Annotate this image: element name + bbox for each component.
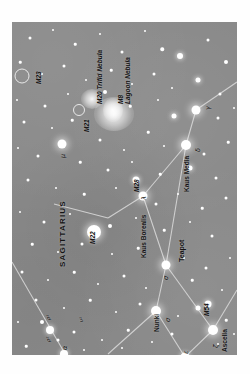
field-star [83,349,85,351]
field-star [201,207,204,210]
label-epsilon: ε [182,350,190,354]
field-star [233,107,235,109]
field-star [229,257,231,259]
label-m22: M22 [89,231,96,244]
field-star [227,141,230,144]
field-star [151,341,153,343]
field-star [219,93,222,96]
label-m8: M8 [117,95,124,104]
m21-cluster-ring [73,104,85,116]
field-star [144,30,146,32]
label-ascella: Ascella [221,329,228,352]
field-star [29,37,32,40]
field-star [89,299,92,302]
field-star [73,271,76,274]
field-star [47,279,49,281]
field-star [73,331,76,334]
field-star [207,39,210,42]
label-m8-lagoon: Lagoon Nebula [124,57,131,104]
label-rho2: ρ² [45,337,51,342]
m23-cluster-ring [15,69,30,84]
label-kaus-borealis: Kaus Borealis [140,215,147,258]
field-star [19,211,21,213]
label-constellation: SAGITTARIUS [58,200,67,267]
label-nunki: Nunki [153,314,160,332]
field-star [171,333,174,336]
field-star [155,203,158,206]
field-star [191,279,194,282]
star-chart-page: M23 M21 M20 Trifid Nebula M8 Lagoon Nebu… [0,0,250,374]
star-mu [58,140,67,149]
label-mu: μ [59,154,67,158]
field-star [51,127,53,129]
label-kaus-media: Kaus Media [183,156,190,192]
field-star [17,321,19,323]
field-star [81,243,84,246]
field-star [115,311,117,313]
field-star [40,320,44,324]
field-star [21,271,24,274]
field-star [52,29,54,31]
label-m54: M54 [203,303,210,316]
field-star [71,119,74,122]
field-star [224,60,228,64]
label-m28: M28 [133,179,140,192]
star-kaus-media [181,140,191,150]
field-star [225,319,228,322]
field-star [131,83,133,85]
star-gamma [192,106,201,115]
field-star [139,303,142,306]
field-star [121,347,123,349]
label-sigma-nunki: σ [164,318,172,322]
field-star [129,105,132,108]
field-star [99,33,101,35]
star-alpha [60,350,68,355]
field-star [131,161,133,163]
label-rho1: ρ¹ [45,315,51,320]
field-star [63,65,66,68]
star-sigma-teapot [162,261,171,270]
field-star [137,247,140,250]
field-star [63,307,65,309]
field-star [127,329,130,332]
field-star [147,131,150,134]
field-star [145,287,147,289]
field-star [110,69,113,72]
star-rho [46,326,54,334]
field-star [211,235,214,238]
field-star [177,53,183,59]
label-m20-trifid: M20 Trifid Nebula [96,50,103,104]
field-star [103,90,107,94]
field-star [69,213,71,215]
field-star [205,267,208,270]
field-star [85,79,87,81]
field-star [37,155,40,158]
field-star [157,99,159,101]
field-star [221,289,223,291]
field-star [111,253,113,255]
field-star [27,179,30,182]
field-star [121,51,124,54]
field-star [55,187,57,189]
field-star [79,161,82,164]
field-star [115,187,117,189]
label-delta: δ [194,148,202,152]
field-star [35,299,38,302]
label-zeta: ζ [212,344,220,348]
field-star [163,145,165,147]
field-star [163,229,166,232]
field-star [159,173,162,176]
field-star [153,73,156,76]
field-star [83,193,86,196]
field-star [44,105,47,108]
field-star [43,221,46,224]
label-teapot: Teapot [178,240,185,262]
field-star [101,339,103,341]
label-sigma-teapot: σ [162,276,170,280]
field-star [16,99,18,101]
field-star [107,169,110,172]
field-star [57,339,60,342]
field-star [172,114,177,119]
label-m23: M23 [35,71,42,84]
label-lambda: λ [140,196,148,200]
